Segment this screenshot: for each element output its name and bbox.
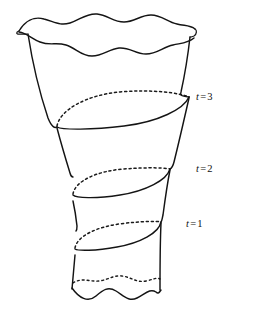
tube-diagram — [0, 0, 258, 319]
label-t-3: t=3 — [196, 92, 213, 103]
top-right-corner-hook — [190, 29, 196, 37]
label-t-1-value: 1 — [197, 218, 202, 229]
label-t-2: t=2 — [196, 164, 213, 175]
label-t-2-value: 2 — [207, 163, 212, 174]
figure-canvas: t=3 t=2 t=1 — [0, 0, 258, 319]
tube-body-fill — [29, 33, 190, 291]
label-t-1: t=1 — [186, 219, 203, 230]
label-t-3-value: 3 — [207, 91, 212, 102]
top-back-rim — [19, 14, 195, 31]
